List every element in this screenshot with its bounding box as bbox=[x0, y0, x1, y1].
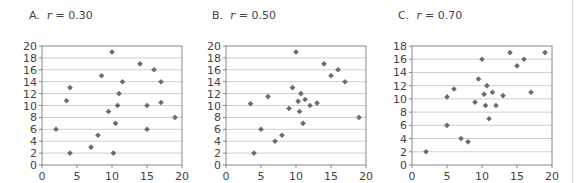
data-point-marker bbox=[514, 63, 520, 69]
data-point-marker bbox=[465, 139, 471, 145]
data-point-marker bbox=[490, 89, 496, 95]
data-point-marker bbox=[542, 50, 548, 56]
data-point-marker bbox=[507, 50, 513, 56]
data-point-marker bbox=[521, 56, 527, 62]
data-point-marker bbox=[500, 93, 506, 99]
data-point-marker bbox=[444, 123, 450, 129]
data-point-marker bbox=[476, 76, 482, 82]
y-tick-label: 4 bbox=[400, 133, 407, 146]
x-tick-label: 15 bbox=[510, 170, 524, 183]
y-tick-label: 10 bbox=[393, 93, 407, 106]
y-tick-label: 0 bbox=[400, 159, 407, 172]
x-tick-label: 0 bbox=[409, 170, 416, 183]
y-tick-label: 6 bbox=[400, 119, 407, 132]
data-point-marker bbox=[528, 89, 534, 95]
data-point-marker bbox=[423, 149, 429, 155]
x-tick-label: 10 bbox=[475, 170, 489, 183]
data-point-marker bbox=[479, 56, 485, 62]
data-point-marker bbox=[451, 86, 457, 92]
scatter-plot-c: 02468101214161805101520 bbox=[0, 0, 588, 183]
y-tick-label: 2 bbox=[400, 146, 407, 159]
y-tick-label: 16 bbox=[393, 53, 407, 66]
chart-panel-c: C. r = 0.70 02468101214161805101520 bbox=[0, 0, 588, 183]
x-tick-label: 20 bbox=[545, 170, 559, 183]
y-tick-label: 8 bbox=[400, 106, 407, 119]
plot-frame bbox=[412, 46, 552, 165]
page-divider bbox=[572, 0, 573, 183]
x-tick-label: 5 bbox=[444, 170, 451, 183]
y-tick-label: 12 bbox=[393, 80, 407, 93]
data-point-marker bbox=[472, 99, 478, 105]
y-tick-label: 18 bbox=[393, 40, 407, 53]
data-point-marker bbox=[486, 116, 492, 122]
data-point-marker bbox=[493, 103, 499, 109]
data-point-marker bbox=[458, 136, 464, 142]
y-tick-label: 14 bbox=[393, 66, 407, 79]
data-point-marker bbox=[483, 103, 489, 109]
data-point-marker bbox=[481, 91, 487, 97]
data-point-marker bbox=[484, 83, 490, 89]
